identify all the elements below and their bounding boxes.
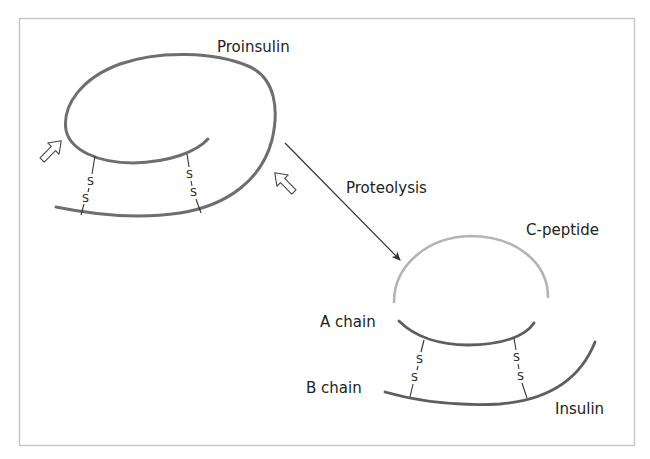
sulfur-atom: S [190, 186, 197, 199]
sulfur-atom: S [87, 175, 94, 188]
label-c-peptide: C-peptide [526, 221, 599, 239]
sulfur-atom: S [517, 370, 524, 383]
label-proteolysis: Proteolysis [346, 179, 427, 197]
sulfur-atom: S [82, 192, 89, 205]
label-a-chain: A chain [320, 313, 376, 331]
label-b-chain: B chain [306, 379, 362, 397]
sulfur-atom: S [513, 351, 520, 364]
sulfur-atom: S [186, 168, 193, 181]
sulfur-atom: S [411, 371, 418, 384]
sulfur-atom: S [416, 353, 423, 366]
proinsulin-processing-diagram: S S S S Proinsulin Proteolysis C-pepti [0, 0, 650, 459]
label-insulin: Insulin [555, 400, 604, 418]
label-proinsulin: Proinsulin [217, 38, 290, 56]
